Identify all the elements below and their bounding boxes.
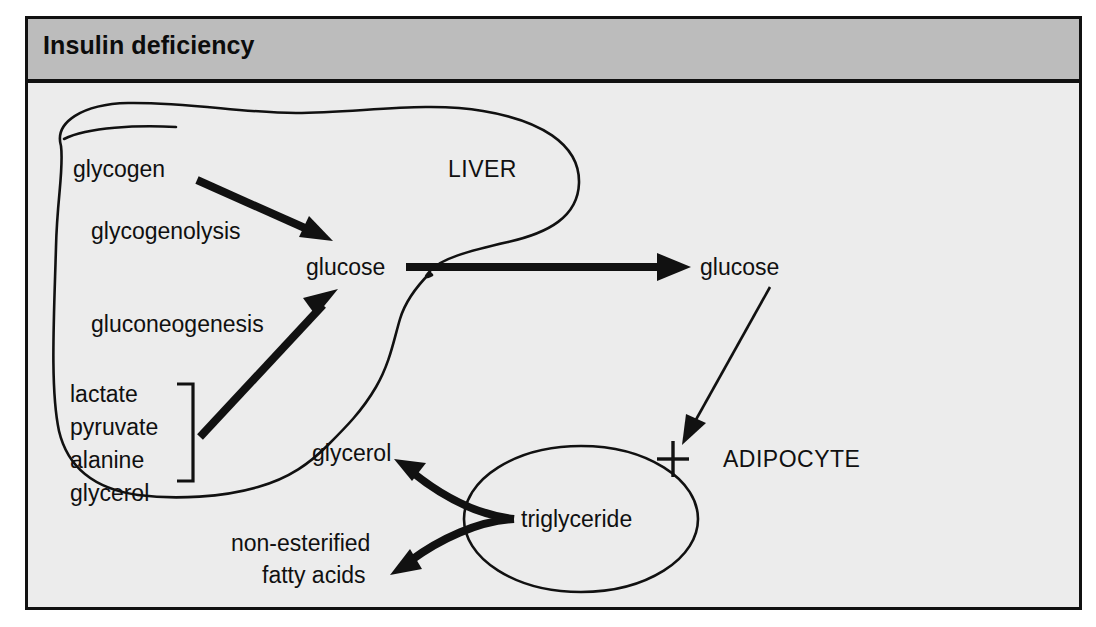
liver-compartment-label: LIVER	[448, 156, 517, 182]
pathway-gluconeogenesis: gluconeogenesis	[91, 311, 264, 337]
hepatic-glucose-output-arrow-icon	[406, 253, 691, 281]
metabolite-triglyceride: triglyceride	[521, 506, 632, 532]
product-nefa-line1: non-esterified	[231, 530, 370, 556]
substrate-glycerol: glycerol	[70, 480, 149, 506]
diagram-canvas: LIVER glycogen glycogenolysis gluconeoge…	[28, 87, 1079, 607]
figure-title-bar: Insulin deficiency	[28, 19, 1079, 83]
adipocyte-compartment-label: ADIPOCYTE	[723, 446, 860, 472]
inhibition-cross-icon	[657, 441, 689, 477]
figure-frame: insulin substitution the a sulfonylurea …	[25, 16, 1082, 610]
substrate-alanine: alanine	[70, 447, 144, 473]
product-glycerol: glycerol	[312, 440, 391, 466]
figure-title: Insulin deficiency	[43, 31, 255, 60]
figure-page: insulin substitution the a sulfonylurea …	[0, 0, 1096, 627]
glucose-uptake-arrow-icon	[682, 287, 770, 445]
pathway-glycogenolysis: glycogenolysis	[91, 218, 241, 244]
metabolite-glucose-hepatic: glucose	[306, 254, 385, 280]
metabolite-glucose-circulating: glucose	[700, 254, 779, 280]
substrate-lactate: lactate	[70, 381, 138, 407]
product-nefa-line2: fatty acids	[262, 562, 366, 588]
lipolysis-nefa-arrow-icon	[390, 519, 514, 575]
metabolite-glycogen: glycogen	[73, 156, 165, 182]
substrate-pyruvate: pyruvate	[70, 414, 158, 440]
liver-outline-notch	[64, 126, 176, 139]
substrate-bracket-icon	[177, 384, 193, 481]
metabolism-diagram: LIVER glycogen glycogenolysis gluconeoge…	[28, 87, 1079, 607]
